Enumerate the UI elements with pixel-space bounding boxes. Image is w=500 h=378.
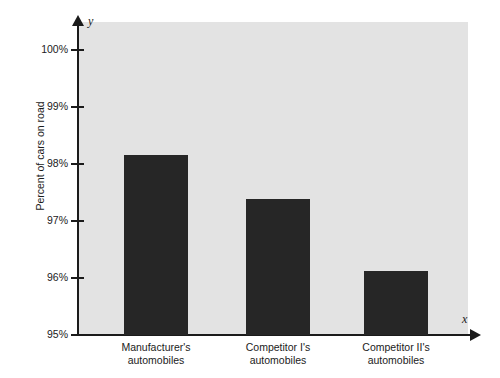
y-tick-mark: [71, 277, 84, 279]
x-tick-label-line: automobiles: [326, 354, 466, 367]
y-tick-label: 95%: [0, 328, 68, 340]
x-tick-label: Manufacturer'sautomobiles: [86, 341, 226, 367]
x-tick-label-line: automobiles: [86, 354, 226, 367]
y-tick-mark: [71, 220, 84, 222]
x-axis-letter: x: [462, 312, 467, 327]
y-tick-mark: [71, 334, 84, 336]
x-tick-label-line: Competitor II's: [326, 341, 466, 354]
y-tick-label: 99%: [0, 100, 68, 112]
y-axis-arrowhead: [72, 15, 84, 26]
y-tick-label: 97%: [0, 214, 68, 226]
y-tick-mark: [71, 106, 84, 108]
bar: [364, 271, 428, 335]
bar-chart: y x Percent of cars on road 100%99%98%97…: [0, 0, 500, 378]
y-tick-mark: [71, 49, 84, 51]
bar: [246, 199, 310, 335]
x-axis-arrowhead: [470, 329, 481, 341]
y-tick-mark: [71, 163, 84, 165]
y-tick-label: 96%: [0, 271, 68, 283]
y-axis-letter: y: [88, 14, 93, 29]
y-axis-line: [77, 24, 79, 336]
bar: [124, 155, 188, 335]
x-tick-label-line: Manufacturer's: [86, 341, 226, 354]
x-tick-label: Competitor II'sautomobiles: [326, 341, 466, 367]
y-tick-label: 98%: [0, 157, 68, 169]
y-tick-label: 100%: [0, 43, 68, 55]
